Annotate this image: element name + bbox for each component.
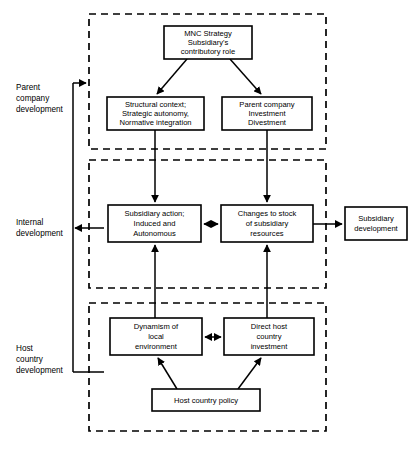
node-mnc-strategy-line-1: MNC Strategy	[184, 29, 232, 38]
node-direct-host-country-investment-line-2: country	[257, 332, 282, 341]
node-subsidiary-action-line-2: Induced and	[134, 219, 176, 228]
edge-mnc-to-parent-investment	[230, 59, 261, 94]
node-dynamism-local-environment-line-1: Dynamism of	[134, 322, 179, 331]
node-parent-company-investment[interactable]: Parent company Investment Divestment	[222, 97, 312, 130]
node-parent-company-investment-line-1: Parent company	[239, 100, 294, 109]
node-changes-to-stock-line-2: of subsidiary	[246, 219, 289, 228]
node-structural-context-line-3: Normative integration	[119, 118, 191, 127]
node-structural-context-line-1: Structural context;	[125, 100, 186, 109]
zone-label-parent-company-development: Parent company development	[16, 83, 64, 114]
edge-policy-to-dynamism	[158, 358, 177, 389]
zone-label-internal-development: Internal development	[16, 218, 64, 238]
feedback-bus	[73, 83, 104, 372]
zone-label-host-country-development-line-3: development	[16, 366, 64, 375]
node-subsidiary-development[interactable]: Subsidiary development	[345, 207, 407, 240]
node-subsidiary-development-line-2: development	[354, 224, 398, 233]
zone-label-internal-development-line-2: development	[16, 229, 64, 238]
zone-label-parent-company-development-line-1: Parent	[16, 83, 41, 92]
node-mnc-strategy-line-2: Subsidiary's	[188, 38, 229, 47]
node-changes-to-stock[interactable]: Changes to stock of subsidiary resources	[221, 205, 313, 242]
node-structural-context[interactable]: Structural context; Strategic autonomy, …	[107, 97, 204, 130]
node-subsidiary-action-line-1: Subsidiary action;	[125, 209, 185, 218]
zone-label-host-country-development: Host country development	[16, 344, 64, 375]
node-host-country-policy-line-1: Host country policy	[174, 396, 238, 405]
edge-mnc-to-structural-context	[157, 59, 187, 94]
subsidiary-development-diagram: MNC Strategy Subsidiary's contributory r…	[0, 0, 415, 453]
node-subsidiary-development-line-1: Subsidiary	[358, 214, 394, 223]
node-direct-host-country-investment[interactable]: Direct host country investment	[224, 318, 314, 355]
node-subsidiary-action[interactable]: Subsidiary action; Induced and Autonomou…	[108, 205, 201, 242]
zone-label-internal-development-line-1: Internal	[16, 218, 43, 227]
zone-labels: Parent company development Internal deve…	[16, 83, 64, 375]
node-direct-host-country-investment-line-3: investment	[251, 342, 289, 351]
node-mnc-strategy-line-3: contributory role	[181, 47, 235, 56]
node-dynamism-local-environment-line-2: local	[148, 332, 164, 341]
node-structural-context-line-2: Strategic autonomy,	[122, 109, 189, 118]
diagram-nodes: MNC Strategy Subsidiary's contributory r…	[107, 26, 407, 411]
node-parent-company-investment-line-2: Investment	[248, 109, 286, 118]
node-host-country-policy[interactable]: Host country policy	[152, 389, 260, 411]
zone-label-parent-company-development-line-2: company	[16, 94, 50, 103]
node-dynamism-local-environment[interactable]: Dynamism of local environment	[110, 318, 202, 355]
node-direct-host-country-investment-line-1: Direct host	[251, 322, 288, 331]
node-changes-to-stock-line-1: Changes to stock	[238, 209, 297, 218]
zone-label-host-country-development-line-2: country	[16, 355, 44, 364]
diagram-canvas: MNC Strategy Subsidiary's contributory r…	[0, 0, 415, 453]
zone-label-parent-company-development-line-3: development	[16, 105, 64, 114]
node-subsidiary-action-line-3: Autonomous	[133, 229, 176, 238]
node-changes-to-stock-line-3: resources	[250, 229, 284, 238]
zone-label-host-country-development-line-1: Host	[16, 344, 34, 353]
edge-policy-to-direct-investment	[238, 358, 261, 389]
node-parent-company-investment-line-3: Divestment	[248, 118, 287, 127]
node-dynamism-local-environment-line-3: environment	[135, 342, 178, 351]
node-mnc-strategy[interactable]: MNC Strategy Subsidiary's contributory r…	[164, 26, 252, 59]
